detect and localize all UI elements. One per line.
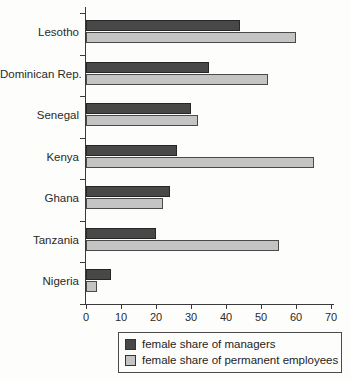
bar-managers (86, 269, 111, 280)
legend-swatch-managers (125, 339, 136, 350)
x-axis-tick (191, 305, 192, 309)
x-axis-tick (156, 305, 157, 309)
bar-permanent-employees (86, 281, 97, 292)
x-axis-tick (296, 305, 297, 309)
x-tick-label: 60 (283, 311, 309, 323)
category-label: Tanzania (0, 233, 79, 247)
legend-item-permanent-employees: female share of permanent employees (125, 352, 337, 368)
y-axis-tick (80, 262, 85, 263)
category-label: Lesotho (0, 25, 79, 39)
bar-managers (86, 62, 209, 73)
x-axis-tick (261, 305, 262, 309)
plot-area: LesothoDominican Rep.SenegalKenyaGhanaTa… (0, 0, 351, 380)
y-axis-tick (80, 221, 85, 222)
x-axis-tick (331, 305, 332, 309)
bar-managers (86, 145, 177, 156)
bar-permanent-employees (86, 32, 296, 43)
bar-managers (86, 103, 191, 114)
legend-label-permanent-employees: female share of permanent employees (142, 353, 338, 367)
x-tick-label: 10 (108, 311, 134, 323)
category-label: Dominican Rep. (0, 67, 79, 81)
bar-managers (86, 186, 170, 197)
x-tick-label: 20 (143, 311, 169, 323)
x-axis-tick (226, 305, 227, 309)
x-axis-tick (86, 305, 87, 309)
x-tick-label: 40 (213, 311, 239, 323)
y-axis-tick (80, 179, 85, 180)
category-label: Senegal (0, 108, 79, 122)
x-tick-label: 0 (73, 311, 99, 323)
bar-permanent-employees (86, 198, 163, 209)
legend: female share of managers female share of… (118, 332, 342, 373)
category-label: Kenya (0, 150, 79, 164)
x-tick-label: 30 (178, 311, 204, 323)
legend-label-managers: female share of managers (142, 337, 276, 351)
x-tick-label: 50 (248, 311, 274, 323)
category-label: Ghana (0, 191, 79, 205)
y-axis-tick (80, 13, 85, 14)
legend-item-managers: female share of managers (125, 336, 337, 352)
y-axis-tick (80, 96, 85, 97)
y-axis-tick (80, 138, 85, 139)
bar-permanent-employees (86, 157, 314, 168)
y-axis-tick (80, 55, 85, 56)
category-label: Nigeria (0, 274, 79, 288)
bar-chart-figure: LesothoDominican Rep.SenegalKenyaGhanaTa… (0, 0, 351, 380)
bar-permanent-employees (86, 115, 198, 126)
bar-permanent-employees (86, 240, 279, 251)
bar-permanent-employees (86, 74, 268, 85)
bar-managers (86, 228, 156, 239)
x-axis-tick (121, 305, 122, 309)
x-tick-label: 70 (318, 311, 344, 323)
y-axis-tick (80, 304, 85, 305)
legend-swatch-permanent-employees (125, 355, 136, 366)
bar-managers (86, 20, 240, 31)
